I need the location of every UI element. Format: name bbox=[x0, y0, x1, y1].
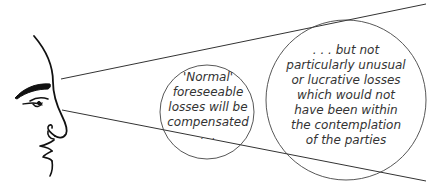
large-circle-line: . . . but not bbox=[278, 43, 414, 58]
large-circle-line: particularly unusual bbox=[278, 58, 414, 73]
large-circle-line: of the parties bbox=[278, 133, 414, 148]
small-circle-line: foreseeable bbox=[162, 85, 254, 100]
small-circle-line: . . . bbox=[162, 130, 254, 143]
eyebrow-icon bbox=[15, 84, 50, 99]
foreseeable-losses-text: 'Normal' foreseeable losses will be comp… bbox=[162, 70, 254, 143]
small-circle-line: losses will be bbox=[162, 100, 254, 115]
large-circle-line: have been within bbox=[278, 103, 414, 118]
small-circle-line: 'Normal' bbox=[162, 70, 254, 85]
large-circle-line: which would not bbox=[278, 88, 414, 103]
small-circle-line: compensated bbox=[162, 115, 254, 130]
large-circle-line: the contemplation bbox=[278, 118, 414, 133]
unusual-losses-text: . . . but not particularly unusual or lu… bbox=[278, 43, 414, 148]
large-circle-line: or lucrative losses bbox=[278, 73, 414, 88]
eye-icon bbox=[23, 98, 48, 107]
